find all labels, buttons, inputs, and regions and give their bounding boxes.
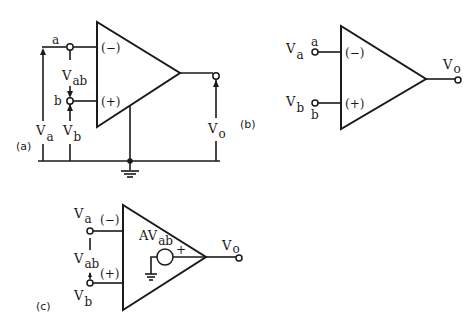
panel-b: a b (−) (+) Va Vb Vo (b) xyxy=(240,26,461,131)
ground-icon xyxy=(121,171,139,177)
terminal-vo-a xyxy=(213,73,219,79)
label-vo-b: Vo xyxy=(442,57,461,76)
opamp-a-triangle xyxy=(97,22,180,127)
label-inverting: (−) xyxy=(101,41,120,55)
panel-a: a b (−) (+) Vab Va Vb Vo (a) xyxy=(16,22,226,177)
label-inverting-b: (−) xyxy=(345,46,364,60)
opamp-figure: a b (−) (+) Vab Va Vb Vo (a) a b (−) (+)… xyxy=(0,0,474,330)
label-vab-c: Vab xyxy=(73,251,100,271)
label-b: b xyxy=(54,94,62,108)
va-arrow-head xyxy=(40,48,46,55)
label-a: a xyxy=(52,33,59,47)
terminal-a-c xyxy=(87,228,93,234)
label-va-c: Va xyxy=(73,206,92,226)
terminal-b-c xyxy=(87,280,93,286)
caption-b: (b) xyxy=(240,118,256,131)
label-source-plus: + xyxy=(176,243,186,257)
terminal-a xyxy=(67,44,73,50)
label-vb-c: Vb xyxy=(73,288,92,309)
junction-dot xyxy=(127,158,133,164)
panel-c: (−) (+) Va Vab Vb AVab + Vo (c) xyxy=(36,205,242,313)
label-vb-b: Vb xyxy=(285,94,304,115)
terminal-a-b xyxy=(312,49,318,55)
terminal-b-b xyxy=(312,100,318,106)
label-vab: Vab xyxy=(61,68,88,88)
vb-arrow-head xyxy=(67,104,73,111)
opamp-b-triangle xyxy=(341,26,426,129)
label-va: Va xyxy=(35,123,54,144)
label-noninverting-b: (+) xyxy=(345,97,364,111)
label-b-b: b xyxy=(311,108,319,122)
terminal-b xyxy=(67,98,73,104)
terminal-vo-b xyxy=(455,77,461,83)
vab-arrow-head xyxy=(67,91,73,98)
label-vb: Vb xyxy=(62,123,81,144)
vab-arrow-head-c xyxy=(88,272,92,277)
label-noninverting: (+) xyxy=(101,95,120,109)
caption-a: (a) xyxy=(16,140,31,153)
label-a-b: a xyxy=(311,35,318,49)
caption-c: (c) xyxy=(36,300,51,313)
label-va-b: Va xyxy=(285,41,304,62)
vo-arrow-head xyxy=(213,80,219,87)
label-vo: Vo xyxy=(207,121,226,141)
voltage-source-icon xyxy=(157,249,173,265)
label-inverting-c: (−) xyxy=(100,213,119,227)
label-noninverting-c: (+) xyxy=(100,267,119,281)
label-vo-c: Vo xyxy=(221,238,240,256)
